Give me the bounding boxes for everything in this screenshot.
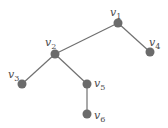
node-label-subscript: 1 bbox=[116, 12, 121, 21]
node-label-v3: v3 bbox=[8, 68, 19, 83]
node-label-subscript: 3 bbox=[14, 74, 19, 83]
node-label-subscript: 4 bbox=[155, 42, 160, 51]
node-v5 bbox=[83, 80, 92, 89]
node-label-v4: v4 bbox=[149, 36, 160, 51]
edge-v2-v3 bbox=[22, 54, 55, 84]
tree-diagram: v1v2v3v4v5v6 bbox=[0, 0, 168, 128]
labels-group: v1v2v3v4v5v6 bbox=[8, 6, 160, 124]
node-label-v2: v2 bbox=[45, 36, 56, 51]
node-label-v5: v5 bbox=[94, 77, 105, 92]
node-label-subscript: 2 bbox=[51, 42, 56, 51]
edges-group bbox=[22, 23, 150, 114]
nodes-group bbox=[18, 19, 155, 119]
edge-v1-v4 bbox=[118, 23, 150, 52]
node-label-v1: v1 bbox=[110, 6, 121, 21]
node-label-subscript: 6 bbox=[100, 115, 105, 124]
edge-v2-v5 bbox=[55, 54, 87, 84]
node-label-v6: v6 bbox=[94, 109, 105, 124]
edge-v1-v2 bbox=[55, 23, 118, 54]
node-label-subscript: 5 bbox=[100, 83, 105, 92]
node-v6 bbox=[83, 110, 92, 119]
